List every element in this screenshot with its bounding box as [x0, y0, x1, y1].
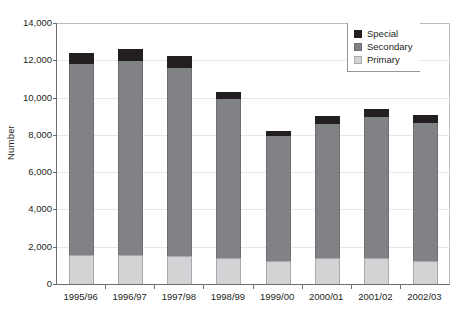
bar-segment-primary [315, 258, 340, 284]
x-axis-tick [105, 284, 106, 289]
bar-segment-secondary [167, 68, 192, 256]
bar-segment-special [69, 53, 94, 64]
bar-segment-secondary [315, 124, 340, 258]
gridline [57, 247, 450, 248]
x-axis-tick-label: 1998/99 [203, 291, 252, 302]
y-axis-tick-label: 8,000 [4, 130, 52, 140]
x-axis-tick-label: 2001/02 [351, 291, 400, 302]
x-axis-tick-label: 1995/96 [56, 291, 105, 302]
y-axis-tick [53, 60, 57, 61]
x-axis-tick [302, 284, 303, 289]
legend-swatch-icon [354, 30, 362, 38]
legend-item: Primary [354, 53, 412, 66]
bar-segment-primary [69, 255, 94, 284]
bar-segment-special [266, 131, 291, 136]
bar-segment-secondary [69, 64, 94, 255]
bar-stack [216, 92, 241, 284]
x-axis-tick-label: 2000/01 [302, 291, 351, 302]
y-axis-tick [53, 172, 57, 173]
bar-stack [266, 131, 291, 284]
bar-stack [315, 116, 340, 284]
bar-segment-secondary [118, 61, 143, 255]
y-axis-tick-label: 4,000 [4, 204, 52, 214]
legend-item: Secondary [354, 40, 412, 53]
x-axis-tick [203, 284, 204, 289]
y-axis-tick [53, 247, 57, 248]
bar-segment-secondary [266, 136, 291, 261]
bar-segment-secondary [216, 99, 241, 258]
legend-swatch-icon [354, 43, 362, 51]
bar-segment-secondary [413, 123, 438, 261]
gridline [57, 209, 450, 210]
bar-segment-primary [364, 258, 389, 284]
bar-segment-special [315, 116, 340, 123]
y-axis-tick [53, 135, 57, 136]
x-axis-tick-label: 1997/98 [154, 291, 203, 302]
bar-stack [69, 53, 94, 284]
y-axis-labels: 02,0004,0006,0008,00010,00012,00014,000 [0, 23, 52, 284]
y-axis-tick [53, 209, 57, 210]
x-axis-tick-label: 2002/03 [400, 291, 449, 302]
x-axis-tick-label: 1999/00 [253, 291, 302, 302]
gridline [57, 98, 450, 99]
bar-segment-special [118, 49, 143, 61]
bar-segment-primary [118, 255, 143, 284]
bar-segment-primary [413, 261, 438, 284]
y-axis-tick-label: 14,000 [4, 18, 52, 28]
x-axis-tick [351, 284, 352, 289]
bar-stack [118, 49, 143, 284]
x-axis-tick [154, 284, 155, 289]
y-axis-tick-label: 12,000 [4, 55, 52, 65]
bar-segment-primary [216, 258, 241, 284]
y-axis-tick-label: 10,000 [4, 93, 52, 103]
x-axis: 1995/961996/971997/981998/991999/002000/… [56, 284, 449, 316]
x-axis-tick-label: 1996/97 [105, 291, 154, 302]
x-axis-tick [400, 284, 401, 289]
bar-segment-secondary [364, 117, 389, 258]
legend-item: Special [354, 27, 412, 40]
legend-swatch-icon [354, 56, 362, 64]
bar-stack [413, 115, 438, 284]
y-axis-tick [53, 98, 57, 99]
bar-stack [167, 56, 192, 284]
bar-segment-special [167, 56, 192, 68]
bar-segment-primary [266, 261, 291, 284]
y-axis-tick-label: 0 [4, 279, 52, 289]
gridline [57, 172, 450, 173]
chart-legend: SpecialSecondaryPrimary [347, 23, 420, 72]
y-axis-tick-label: 6,000 [4, 167, 52, 177]
legend-item-label: Primary [367, 54, 400, 65]
bar-segment-special [364, 109, 389, 117]
bar-segment-special [216, 92, 241, 99]
y-axis-tick-label: 2,000 [4, 242, 52, 252]
stacked-bar-chart: Number 02,0004,0006,0008,00010,00012,000… [0, 0, 453, 316]
bar-segment-primary [167, 256, 192, 284]
legend-item-label: Secondary [367, 41, 412, 52]
x-axis-tick [253, 284, 254, 289]
y-axis-tick [53, 23, 57, 24]
plot-frame-right [449, 23, 450, 284]
bar-segment-special [413, 115, 438, 122]
gridline [57, 135, 450, 136]
bar-stack [364, 109, 389, 284]
legend-item-label: Special [367, 28, 398, 39]
